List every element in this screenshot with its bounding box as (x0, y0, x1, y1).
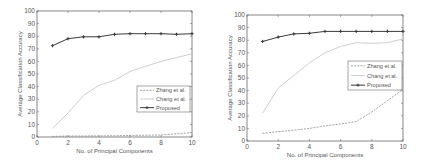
y-tick-label: 50 (28, 70, 36, 77)
y-tick-label: 20 (238, 112, 246, 119)
y-tick-label: 80 (28, 32, 36, 39)
y-tick-label: 20 (28, 108, 36, 115)
x-tick-label: 4 (308, 143, 312, 150)
x-tick-label: 4 (97, 139, 101, 146)
legend-label: Zhang et al. (156, 87, 186, 93)
x-tick-label: 0 (35, 139, 39, 146)
x-axis-label: No. of Principal Components (287, 152, 363, 158)
x-tick-label: 0 (245, 143, 249, 150)
y-tick-label: 10 (238, 125, 246, 132)
y-tick-label: 70 (238, 49, 246, 56)
y-tick-label: 90 (28, 20, 36, 27)
x-tick-label: 8 (370, 143, 374, 150)
x-tick-label: 2 (276, 143, 280, 150)
y-tick-label: 50 (238, 74, 246, 81)
y-axis-label: Average Classification Accuracy (227, 35, 233, 120)
y-tick-label: 30 (28, 95, 36, 102)
y-tick-label: 80 (238, 36, 246, 43)
x-tick-label: 8 (159, 139, 163, 146)
legend-label: Zhang et al. (367, 63, 397, 69)
x-tick-label: 6 (128, 139, 132, 146)
chart-panel-2: 01020304050607080901000246810No. of Prin… (227, 11, 407, 158)
x-tick-label: 2 (66, 139, 70, 146)
figure-canvas: 01020304050607080901000246810No. of Prin… (0, 0, 421, 168)
plot-area (37, 11, 192, 137)
y-tick-label: 70 (28, 45, 36, 52)
y-axis-label: Average Classification Accuracy (17, 31, 23, 116)
y-tick-label: 30 (238, 99, 246, 106)
legend-label: Proposed (156, 105, 180, 111)
legend-label: Proposed (367, 82, 391, 88)
y-tick-label: 10 (28, 121, 36, 128)
legend: Zhang et al.Chang et al.Proposed (348, 61, 402, 90)
y-tick-label: 40 (238, 87, 246, 94)
y-tick-label: 100 (24, 7, 35, 14)
x-tick-label: 10 (188, 139, 196, 146)
legend: Zhang et al.Chang et al.Proposed (137, 86, 190, 112)
legend-label: Chang et al. (367, 73, 398, 79)
chart-panel-1: 01020304050607080901000246810No. of Prin… (17, 7, 196, 154)
y-tick-label: 90 (238, 24, 246, 31)
legend-label: Chang et al. (156, 96, 187, 102)
x-axis-label: No. of Principal Components (76, 148, 152, 154)
y-tick-label: 40 (28, 83, 36, 90)
y-tick-label: 60 (238, 62, 246, 69)
y-tick-label: 100 (234, 11, 245, 18)
x-tick-label: 10 (399, 143, 407, 150)
x-tick-label: 6 (339, 143, 343, 150)
y-tick-label: 60 (28, 58, 36, 65)
